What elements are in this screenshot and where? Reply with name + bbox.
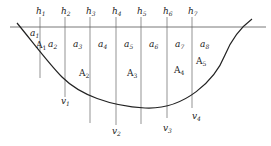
width-label-a5: a5 <box>124 39 133 50</box>
area-label-A2: A2 <box>78 68 90 79</box>
width-label-a4: a4 <box>98 39 107 50</box>
width-label-a3: a3 <box>73 39 82 50</box>
area-label-A3: A3 <box>126 68 138 79</box>
riverbed-curve <box>17 19 252 108</box>
depth-label-h4: h4 <box>112 6 122 17</box>
depth-label-h6: h6 <box>163 6 173 17</box>
width-label-a2: a2 <box>48 39 57 50</box>
width-label-a6: a6 <box>149 39 158 50</box>
velocity-label-v4: v4 <box>192 111 201 122</box>
velocity-label-v1: v1 <box>61 96 70 107</box>
depth-label-h2: h2 <box>61 6 71 17</box>
depth-label-h7: h7 <box>188 6 198 17</box>
vertical-lines <box>40 17 192 125</box>
width-label-a7: a7 <box>175 39 184 50</box>
area-label-A1: A1 <box>35 40 46 51</box>
area-label-A5: A5 <box>195 56 207 67</box>
width-label-a1: a1 <box>30 28 39 39</box>
depth-label-h1: h1 <box>36 6 46 17</box>
cross-section-diagram: h1h2h3h4h5h6h7a1a2a3a4a5a6a7a8A1A2A3A4A5… <box>0 0 271 146</box>
depth-label-h5: h5 <box>137 6 147 17</box>
depth-label-h3: h3 <box>86 6 96 17</box>
width-label-a8: a8 <box>200 39 209 50</box>
velocity-label-v3: v3 <box>163 123 172 134</box>
area-label-A4: A4 <box>173 65 185 76</box>
velocity-label-v2: v2 <box>112 126 121 137</box>
